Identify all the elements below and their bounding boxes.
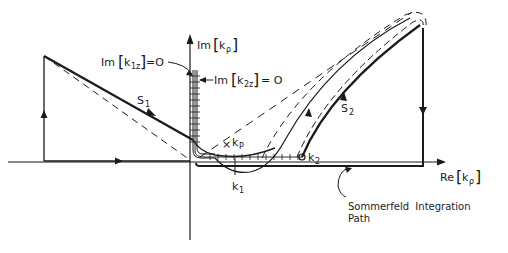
svg-text:Im: Im <box>101 56 115 69</box>
svg-text:Im: Im <box>197 39 211 52</box>
s2-label: S 2 <box>341 102 354 117</box>
svg-text:2: 2 <box>315 157 320 166</box>
svg-text:Path: Path <box>348 213 370 224</box>
svg-text:Im: Im <box>214 74 228 87</box>
k2z-label: Im [ k 2z ] = O <box>214 70 283 89</box>
svg-text:ρ: ρ <box>226 45 231 54</box>
svg-text:k: k <box>124 56 131 69</box>
svg-text:k: k <box>219 39 226 52</box>
sommerfeld-arrow-icon <box>345 167 352 173</box>
svg-text:=O: =O <box>146 56 164 69</box>
k1-label: k 1 <box>232 180 244 195</box>
imag-axis-arrow-icon <box>187 34 194 44</box>
down-arrow-icon <box>419 107 427 115</box>
svg-text:2: 2 <box>349 108 354 117</box>
svg-text:k: k <box>232 136 239 149</box>
up-arrow-icon <box>41 110 48 118</box>
real-axis <box>8 159 446 166</box>
svg-text:Re: Re <box>440 171 454 184</box>
s1-arrow-icon <box>146 108 156 116</box>
k2-label: k 2 <box>308 151 320 166</box>
real-axis-label: Re [ k ρ ] <box>440 167 481 186</box>
svg-text:]: ] <box>475 167 481 186</box>
svg-text:k: k <box>237 74 244 87</box>
svg-text:1: 1 <box>145 100 150 109</box>
k2z-arrow-icon <box>199 77 206 83</box>
sommerfeld-annotation: Sommerfeld Integration Path <box>348 201 470 224</box>
svg-text:= O: = O <box>261 74 283 87</box>
svg-text:S: S <box>341 102 348 115</box>
svg-text:ρ: ρ <box>469 177 474 186</box>
k1-detour-path <box>215 18 410 172</box>
left-contour <box>41 56 191 165</box>
kp-marker-icon: × <box>222 138 231 151</box>
svg-text:S: S <box>137 94 144 107</box>
real-axis-arrow-icon <box>437 159 446 166</box>
svg-text:Sommerfeld Integration: Sommerfeld Integration <box>348 201 470 212</box>
complex-plane-diagram: × Im [ k ρ ] Im [ k 1z ] =O Im [ k 2z ] … <box>0 0 508 253</box>
sommerfeld-leader-line <box>338 168 348 197</box>
svg-text:2z: 2z <box>244 80 253 89</box>
right-arrow-icon <box>115 158 123 165</box>
svg-text:P: P <box>239 142 244 151</box>
svg-text:]: ] <box>232 35 238 54</box>
svg-text:1z: 1z <box>131 62 140 71</box>
svg-text:1: 1 <box>239 186 244 195</box>
k1z-arrow-icon <box>186 70 193 76</box>
k1z-label: Im [ k 1z ] =O <box>101 52 164 71</box>
imag-axis-label: Im [ k ρ ] <box>197 35 238 54</box>
dashed-arrow-icon <box>305 108 312 117</box>
svg-text:k: k <box>232 180 239 193</box>
kp-label: k P <box>232 136 244 151</box>
s1-label: S 1 <box>137 94 150 109</box>
svg-text:k: k <box>308 151 315 164</box>
svg-text:]: ] <box>253 70 259 89</box>
svg-text:k: k <box>462 171 469 184</box>
